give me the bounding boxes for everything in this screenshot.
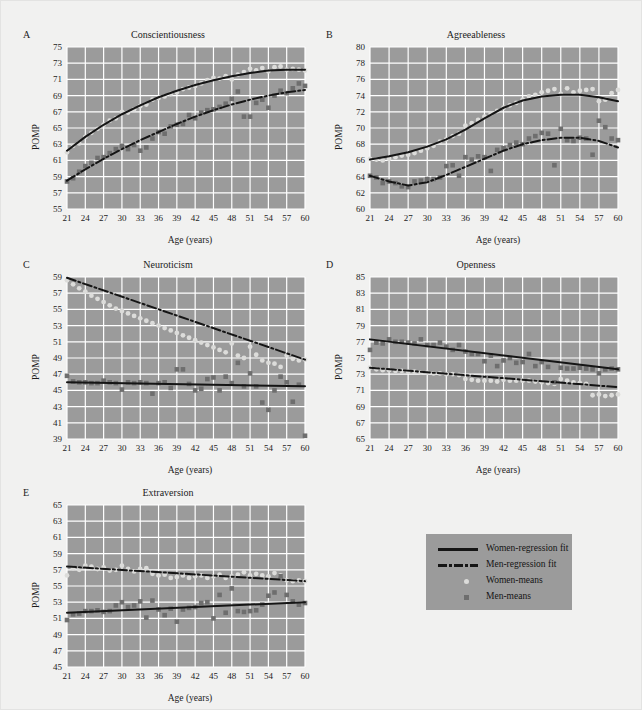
data-point: [126, 311, 131, 316]
x-tick-label: 60: [614, 443, 624, 453]
x-tick-label: 36: [461, 213, 471, 223]
data-point: [156, 573, 161, 578]
data-point: [552, 87, 557, 92]
data-point: [514, 140, 519, 145]
data-point: [590, 393, 595, 398]
x-tick-label: 39: [172, 443, 182, 453]
data-point: [168, 386, 173, 391]
data-point: [266, 408, 271, 413]
data-point: [520, 360, 525, 365]
x-tick-label: 27: [99, 213, 109, 223]
data-point: [463, 123, 468, 128]
legend-label: Women-means: [486, 575, 543, 585]
data-point: [495, 379, 500, 384]
data-point: [120, 563, 125, 568]
data-point: [609, 393, 614, 398]
data-point: [450, 163, 455, 168]
plot-area: 6567697173757779818385212427303336394245…: [326, 259, 626, 481]
data-point: [175, 367, 180, 372]
data-point: [527, 352, 532, 357]
x-tick-label: 45: [209, 671, 219, 681]
data-point: [469, 377, 474, 382]
y-tick-label: 67: [356, 418, 366, 428]
x-tick-label: 24: [81, 213, 91, 223]
data-point: [144, 566, 149, 571]
y-tick-label: 59: [53, 272, 63, 282]
data-point: [132, 603, 137, 608]
data-point: [290, 399, 295, 404]
y-tick-label: 47: [53, 369, 63, 379]
data-point: [187, 113, 192, 118]
data-point: [120, 309, 125, 314]
legend-item: Men-means: [426, 590, 572, 605]
x-tick-label: 36: [154, 213, 164, 223]
y-tick-label: 55: [53, 581, 63, 591]
x-tick-label: 48: [227, 443, 237, 453]
data-point: [138, 599, 143, 604]
x-tick-label: 42: [499, 443, 508, 453]
data-point: [95, 156, 100, 161]
data-point: [260, 573, 265, 578]
data-point: [558, 377, 563, 382]
data-point: [444, 164, 449, 169]
x-tick-label: 30: [117, 443, 127, 453]
x-tick-label: 42: [191, 671, 200, 681]
data-point: [242, 356, 247, 361]
data-point: [578, 365, 583, 370]
data-point: [527, 136, 532, 141]
x-tick-label: 54: [264, 671, 274, 681]
y-tick-label: 71: [356, 385, 365, 395]
y-tick-label: 63: [53, 516, 63, 526]
x-tick-label: 51: [246, 213, 255, 223]
data-point: [205, 343, 210, 348]
data-point: [616, 88, 621, 93]
y-tick-label: 61: [53, 532, 62, 542]
x-tick-label: 51: [556, 213, 565, 223]
y-tick-label: 47: [53, 646, 63, 656]
data-point: [107, 303, 112, 308]
y-tick-label: 81: [356, 304, 365, 314]
data-point: [132, 313, 137, 318]
data-point: [495, 148, 500, 153]
data-point: [260, 400, 265, 405]
data-point: [558, 127, 563, 132]
y-tick-label: 51: [53, 337, 62, 347]
data-point: [368, 348, 373, 353]
data-point: [83, 289, 88, 294]
data-point: [229, 97, 234, 102]
y-tick-label: 55: [53, 204, 63, 214]
y-tick-label: 64: [356, 172, 366, 182]
data-point: [533, 364, 538, 369]
y-tick-label: 71: [53, 74, 62, 84]
y-tick-label: 73: [356, 369, 366, 379]
data-point: [609, 136, 614, 141]
data-point: [571, 366, 576, 371]
data-point: [199, 386, 204, 391]
y-tick-label: 63: [53, 139, 63, 149]
data-point: [290, 86, 295, 91]
legend-marker-swatch: [438, 590, 480, 605]
y-tick-label: 74: [356, 91, 366, 101]
y-tick-label: 62: [356, 188, 365, 198]
data-point: [539, 90, 544, 95]
data-point: [597, 392, 602, 397]
x-tick-label: 21: [366, 213, 375, 223]
x-tick-label: 54: [264, 213, 274, 223]
data-point: [577, 88, 582, 93]
data-point: [138, 148, 143, 153]
data-point: [150, 391, 155, 396]
y-tick-label: 43: [53, 402, 63, 412]
data-point: [168, 328, 173, 333]
x-tick-label: 57: [594, 443, 604, 453]
plot-area: 3941434547495153555759212427303336394245…: [23, 259, 313, 481]
data-point: [597, 99, 602, 104]
panel-openness: DOpennessPOMPAge (years)6567697173757779…: [326, 259, 626, 481]
data-point: [248, 609, 253, 614]
data-point: [603, 394, 608, 399]
data-point: [138, 316, 143, 321]
data-point: [552, 163, 557, 168]
x-tick-label: 54: [264, 443, 274, 453]
x-tick-label: 27: [404, 443, 414, 453]
data-point: [229, 77, 234, 82]
x-tick-label: 27: [404, 213, 414, 223]
